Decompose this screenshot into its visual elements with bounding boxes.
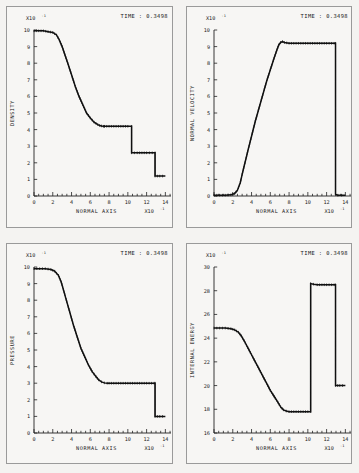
data-markers (214, 40, 342, 196)
y-tick-label: 2 (206, 160, 209, 166)
x-tick-label: 10 (304, 199, 310, 205)
y-tick-label: 8 (206, 60, 209, 66)
x-tick-label: 6 (268, 436, 271, 442)
x-exponent-power: -1 (160, 207, 164, 211)
x-tick-label: 10 (304, 436, 310, 442)
y-exponent-power: -1 (42, 14, 46, 18)
internal-energy-chart: TIME : 0.3498X10-11618202224262830024681… (180, 237, 359, 473)
data-markers (34, 30, 163, 178)
x-tick-label: 0 (212, 436, 215, 442)
x-tick-label: 6 (89, 436, 92, 442)
axis-lines (34, 267, 171, 433)
panel-density: TIME : 0.3498X10-10123456789100246810121… (0, 0, 180, 237)
x-tick-label: 14 (342, 199, 348, 205)
y-tick-label: 6 (27, 330, 30, 336)
y-exponent-label: X10 (206, 252, 215, 258)
x-tick-label: 4 (249, 436, 252, 442)
x-axis-label: NORMAL AXIS (76, 208, 117, 214)
y-exponent-label: X10 (26, 252, 35, 258)
y-axis-label: DENSITY (9, 100, 15, 126)
y-tick-label: 6 (27, 93, 30, 99)
x-exponent-label: X10 (145, 445, 154, 451)
y-tick-label: 0 (206, 193, 209, 199)
y-tick-label: 4 (27, 363, 30, 369)
time-annotation: TIME : 0.3498 (300, 13, 347, 19)
y-tick-label: 0 (27, 193, 30, 199)
x-tick-label: 12 (143, 436, 149, 442)
data-curve (34, 31, 165, 176)
density-chart: TIME : 0.3498X10-10123456789100246810121… (0, 0, 179, 236)
x-tick-label: 4 (70, 199, 73, 205)
x-tick-label: 4 (249, 199, 252, 205)
x-exponent-power: -1 (160, 444, 164, 448)
x-tick-label: 2 (231, 199, 234, 205)
y-axis-label: PRESSURE (9, 335, 15, 365)
x-tick-label: 2 (231, 436, 234, 442)
y-tick-label: 1 (27, 176, 30, 182)
x-tick-label: 8 (287, 436, 290, 442)
x-tick-label: 2 (51, 199, 54, 205)
x-tick-label: 4 (70, 436, 73, 442)
y-tick-label: 18 (203, 406, 209, 412)
x-tick-label: 0 (32, 199, 35, 205)
y-tick-label: 28 (203, 287, 209, 293)
time-annotation: TIME : 0.3498 (121, 250, 168, 256)
x-axis-label: NORMAL AXIS (256, 445, 297, 451)
y-exponent-power: -1 (221, 251, 225, 255)
y-tick-label: 4 (206, 127, 209, 133)
x-tick-label: 12 (323, 436, 329, 442)
y-tick-label: 16 (203, 430, 209, 436)
x-tick-label: 8 (287, 199, 290, 205)
y-tick-label: 3 (27, 143, 30, 149)
y-tick-label: 1 (27, 413, 30, 419)
x-axis-label: NORMAL AXIS (256, 208, 297, 214)
x-tick-label: 8 (108, 436, 111, 442)
y-tick-label: 7 (27, 77, 30, 83)
y-tick-label: 3 (27, 380, 30, 386)
y-tick-label: 9 (27, 44, 30, 50)
y-tick-label: 24 (203, 335, 209, 341)
y-tick-label: 0 (27, 430, 30, 436)
x-exponent-power: -1 (340, 444, 344, 448)
panel-pressure: TIME : 0.3498X10-10123456789100246810121… (0, 237, 180, 473)
y-tick-label: 2 (27, 396, 30, 402)
y-tick-label: 10 (24, 27, 30, 33)
panel-internal-energy: TIME : 0.3498X10-11618202224262830024681… (180, 237, 359, 473)
y-exponent-power: -1 (221, 14, 225, 18)
y-tick-label: 26 (203, 311, 209, 317)
axis-lines (34, 30, 171, 196)
normal-velocity-chart: TIME : 0.3498X10-10123456789100246810121… (180, 0, 359, 236)
x-tick-label: 14 (342, 436, 348, 442)
x-tick-label: 14 (162, 199, 168, 205)
y-axis-label: NORMAL VELOCITY (189, 85, 195, 141)
y-tick-label: 20 (203, 382, 209, 388)
x-tick-label: 14 (162, 436, 168, 442)
y-tick-label: 8 (27, 60, 30, 66)
y-tick-label: 30 (203, 264, 209, 270)
x-exponent-label: X10 (324, 208, 333, 214)
data-curve (34, 268, 165, 416)
y-tick-label: 5 (206, 110, 209, 116)
pressure-chart: TIME : 0.3498X10-10123456789100246810121… (0, 237, 179, 473)
y-tick-label: 1 (206, 176, 209, 182)
data-curve (214, 283, 345, 411)
y-exponent-label: X10 (206, 15, 215, 21)
y-axis-label: INTERNAL ENERGY (189, 321, 195, 377)
y-exponent-label: X10 (26, 15, 35, 21)
y-tick-label: 5 (27, 110, 30, 116)
x-tick-label: 8 (108, 199, 111, 205)
y-tick-label: 22 (203, 358, 209, 364)
y-tick-label: 5 (27, 347, 30, 353)
x-tick-label: 6 (89, 199, 92, 205)
x-axis-label: NORMAL AXIS (76, 445, 117, 451)
y-tick-label: 7 (206, 77, 209, 83)
y-tick-label: 9 (206, 44, 209, 50)
x-tick-label: 10 (125, 436, 131, 442)
x-tick-label: 0 (212, 199, 215, 205)
y-tick-label: 4 (27, 127, 30, 133)
time-annotation: TIME : 0.3498 (121, 13, 168, 19)
data-markers (34, 267, 163, 417)
y-tick-label: 7 (27, 313, 30, 319)
y-tick-label: 10 (24, 264, 30, 270)
y-tick-label: 8 (27, 297, 30, 303)
